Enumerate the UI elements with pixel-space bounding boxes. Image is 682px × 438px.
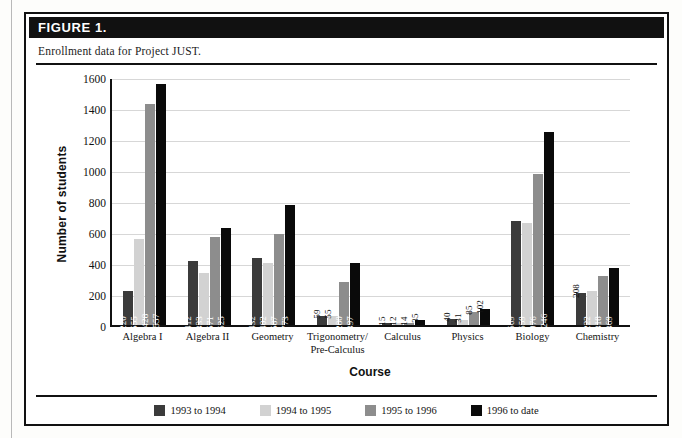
y-axis-tick-label: 800 [89, 197, 106, 209]
bar: 369 [609, 268, 619, 325]
legend-swatch [154, 405, 165, 416]
bar-value-label: 333 [194, 316, 204, 330]
bar-value-label: 102 [475, 300, 485, 314]
bar-value-label: 15 [377, 316, 387, 325]
legend-divider [36, 395, 657, 397]
bar-group: 6696599761246 [501, 79, 566, 325]
bar-group: 412333571625 [177, 79, 242, 325]
bar: 976 [533, 174, 543, 325]
legend-swatch [471, 405, 482, 416]
legend-swatch [260, 405, 271, 416]
x-axis-tick-labels: Algebra IAlgebra IIGeometryTrigonometry/… [110, 331, 630, 356]
bar-group: 5955280397 [306, 79, 371, 325]
bar: 397 [350, 263, 360, 325]
bar-value-label: 59 [312, 309, 322, 318]
x-axis-category-label: Algebra II [175, 331, 240, 356]
bar: 35 [415, 320, 425, 325]
bar: 625 [221, 228, 231, 325]
bar-value-label: 40 [442, 312, 452, 321]
bar: 669 [511, 221, 521, 325]
y-axis-title: Number of students [55, 134, 69, 274]
legend-swatch [365, 405, 376, 416]
bar: 555 [134, 239, 144, 325]
bar: 1246 [544, 132, 554, 325]
bar-value-label: 318 [593, 316, 603, 330]
bar-value-label: 397 [345, 316, 355, 330]
bar-value-label: 432 [247, 316, 257, 330]
y-axis-tick-label: 0 [100, 321, 106, 333]
legend-item[interactable]: 1994 to 1995 [260, 405, 331, 416]
bar-value-label: 976 [528, 316, 538, 330]
bar-value-label: 35 [410, 313, 420, 322]
bar-value-label: 280 [334, 316, 344, 330]
legend-label: 1993 to 1994 [170, 405, 225, 416]
bar-value-label: 222 [582, 316, 592, 330]
bar: 773 [285, 205, 295, 325]
bar-value-label: 571 [205, 316, 215, 330]
x-axis-category-label: Algebra I [110, 331, 175, 356]
bar-value-label: 659 [517, 316, 527, 330]
x-axis-category-label: Calculus [370, 331, 435, 356]
bar: 14 [404, 323, 414, 325]
bar-value-label: 14 [399, 316, 409, 325]
legend-label: 1994 to 1995 [276, 405, 331, 416]
y-axis-tick-label: 1600 [83, 73, 106, 85]
bar-value-label: 773 [280, 316, 290, 330]
bar-value-label: 85 [464, 305, 474, 314]
bar-value-label: 208 [571, 284, 581, 298]
page-gutter-rule [11, 0, 12, 438]
bar-value-label: 220 [118, 316, 128, 330]
bar-value-label: 369 [604, 316, 614, 330]
bar: 1428 [145, 104, 155, 325]
legend-label: 1996 to date [487, 405, 539, 416]
y-axis-tick-label: 400 [89, 259, 106, 271]
bar-value-label: 402 [258, 316, 268, 330]
bar-group: 403185102 [436, 79, 501, 325]
figure-header-bar: FIGURE 1. [29, 17, 664, 38]
bar-value-label: 12 [388, 316, 398, 325]
x-axis-title: Course [110, 365, 630, 379]
legend-item[interactable]: 1993 to 1994 [154, 405, 225, 416]
bar-value-label: 669 [506, 316, 516, 330]
y-axis-tick-label: 1000 [83, 166, 106, 178]
legend-item[interactable]: 1996 to date [471, 405, 539, 416]
bar: 31 [458, 320, 468, 325]
bar-value-label: 1428 [140, 314, 150, 333]
figure-number-label: FIGURE 1. [38, 20, 107, 35]
legend-item[interactable]: 1995 to 1996 [365, 405, 436, 416]
plot-area: 02004006008001000120014001600 2205551428… [110, 79, 630, 327]
bar-value-label: 587 [269, 316, 279, 330]
chart-legend: 1993 to 19941994 to 19951995 to 19961996… [36, 405, 657, 416]
bar: 659 [522, 223, 532, 325]
bar-groups: 2205551428155741233357162543240258777359… [112, 79, 630, 325]
bar: 102 [480, 309, 490, 325]
bar: 587 [274, 234, 284, 325]
x-axis-category-label: Physics [435, 331, 500, 356]
figure-page: FIGURE 1. Enrollment data for Project JU… [0, 0, 682, 438]
bar: 1557 [156, 84, 166, 325]
x-axis-category-label: Trigonometry/Pre-Calculus [305, 331, 370, 356]
bar-value-label: 625 [216, 316, 226, 330]
bar-group: 208222318369 [565, 79, 630, 325]
bar-group: 15121435 [371, 79, 436, 325]
bar-value-label: 412 [183, 316, 193, 330]
x-axis-category-label: Biology [500, 331, 565, 356]
bar-value-label: 1246 [539, 314, 549, 333]
figure-caption: Enrollment data for Project JUST. [36, 38, 657, 65]
x-axis-category-label: Geometry [240, 331, 305, 356]
bar-value-label: 55 [323, 310, 333, 319]
bar-group: 22055514281557 [112, 79, 177, 325]
x-axis-category-label: Chemistry [565, 331, 630, 356]
bar-value-label: 1557 [151, 314, 161, 333]
figure-container: FIGURE 1. Enrollment data for Project JU… [24, 12, 669, 426]
chart-area: Number of students 020040060080010001200… [26, 65, 667, 410]
bar-value-label: 555 [129, 316, 139, 330]
legend-label: 1995 to 1996 [381, 405, 436, 416]
y-axis-tick-label: 1400 [83, 104, 106, 116]
bar-value-label: 31 [453, 314, 463, 323]
bar: 571 [210, 237, 220, 326]
bar-group: 432402587773 [242, 79, 307, 325]
y-axis-tick-label: 200 [89, 290, 106, 302]
y-axis-tick-label: 600 [89, 228, 106, 240]
y-axis-tick-label: 1200 [83, 135, 106, 147]
